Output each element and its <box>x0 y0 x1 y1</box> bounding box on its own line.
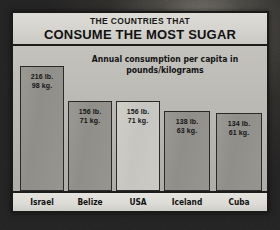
bar-value-label: 216 lb.98 kg. <box>21 72 63 90</box>
page-title: CONSUME THE MOST SUGAR <box>44 27 236 42</box>
value-kilograms: 61 kg. <box>217 128 261 137</box>
value-kilograms: 98 kg. <box>21 81 63 90</box>
axis-label-usa: USA <box>118 193 158 211</box>
value-kilograms: 63 kg. <box>165 126 209 135</box>
panel-header: THE COUNTRIES THAT CONSUME THE MOST SUGA… <box>13 13 267 46</box>
axis-label-israel: Israel <box>22 193 62 211</box>
bar-israel: 216 lb.98 kg. <box>20 66 64 191</box>
bar-value-label: 156 lb.71 kg. <box>117 107 159 125</box>
value-pounds: 134 lb. <box>217 119 261 128</box>
bar-belize: 156 lb.71 kg. <box>68 101 112 191</box>
value-kilograms: 71 kg. <box>117 116 159 125</box>
value-pounds: 216 lb. <box>21 72 63 81</box>
value-kilograms: 71 kg. <box>69 116 111 125</box>
value-pounds: 156 lb. <box>69 107 111 116</box>
bar-cuba: 134 lb.61 kg. <box>216 113 262 191</box>
chart-subtitle: Annual consumption per capita in pounds/… <box>84 54 246 75</box>
axis-label-iceland: Iceland <box>166 193 208 211</box>
axis-label-cuba: Cuba <box>218 193 260 211</box>
axis-label-belize: Belize <box>70 193 110 211</box>
title-line-1: THE COUNTRIES THAT <box>90 16 190 26</box>
value-pounds: 138 lb. <box>165 117 209 126</box>
category-axis: IsraelBelizeUSAIcelandCuba <box>13 191 267 211</box>
value-pounds: 156 lb. <box>117 107 159 116</box>
bar-usa: 156 lb.71 kg. <box>116 101 160 191</box>
bar-iceland: 138 lb.63 kg. <box>164 111 210 191</box>
bar-value-label: 156 lb.71 kg. <box>69 107 111 125</box>
bar-value-label: 134 lb.61 kg. <box>217 119 261 137</box>
chart-plot-area: Annual consumption per capita in pounds/… <box>13 46 267 191</box>
bar-value-label: 138 lb.63 kg. <box>165 117 209 135</box>
infographic-panel: THE COUNTRIES THAT CONSUME THE MOST SUGA… <box>11 11 269 213</box>
